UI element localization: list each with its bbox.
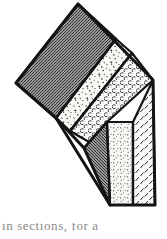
strata-wedge-fine-stipple <box>107 122 133 205</box>
geological-cross-section-figure: in sections, for a <box>0 0 167 239</box>
figure-canvas <box>0 0 167 239</box>
